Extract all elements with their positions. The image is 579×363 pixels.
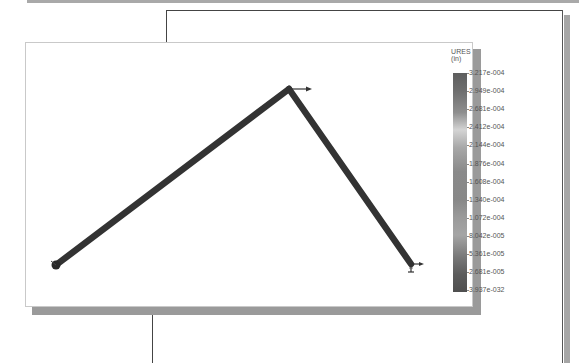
truss-member-left	[56, 89, 289, 265]
truss-model	[0, 0, 579, 363]
truss-members	[56, 89, 411, 265]
truss-member-right	[289, 89, 411, 264]
fixed-support-icon	[51, 261, 61, 270]
